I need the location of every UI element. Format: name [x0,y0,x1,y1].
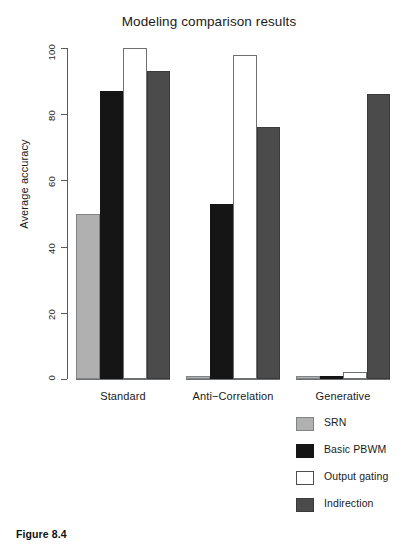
bar [123,48,147,379]
bar [147,71,171,379]
x-axis-label: Anti−Correlation [178,390,288,402]
x-axis-label: Generative [288,390,398,402]
bars-layer [68,48,398,379]
legend-item: SRN [296,414,418,441]
group-baseline [186,379,280,380]
legend-label: SRN [324,416,346,428]
y-tick-label: 20 [46,309,57,365]
figure-caption: Figure 8.4 [16,528,67,540]
y-tick-mark [61,313,67,314]
figure-panel: Modeling comparison results 020406080100… [0,0,418,550]
bar [76,214,100,380]
legend-swatch-icon [296,471,314,485]
bar [210,204,234,379]
legend-item: Basic PBWM [296,441,418,468]
y-tick-label: 100 [46,44,57,100]
legend-label: Output gating [324,470,388,482]
bar [233,55,257,379]
bar [320,376,344,379]
legend-swatch-icon [296,498,314,512]
bar [257,127,281,379]
bar [186,376,210,379]
x-axis-label: Standard [68,390,178,402]
legend-swatch-icon [296,444,314,458]
legend: SRNBasic PBWMOutput gatingIndirection [296,414,418,522]
bar [296,376,320,379]
legend-item: Indirection [296,495,418,522]
y-tick-label: 40 [46,243,57,299]
y-tick-mark [61,379,67,380]
y-tick-label: 80 [46,110,57,166]
y-tick-mark [61,114,67,115]
legend-label: Indirection [324,497,374,509]
legend-swatch-icon [296,417,314,431]
group-baseline [76,379,170,380]
y-tick-label: 60 [46,176,57,232]
y-tick-mark [61,180,67,181]
y-tick-label: 0 [46,375,57,431]
group-baseline [296,379,390,380]
chart-title: Modeling comparison results [0,14,418,29]
legend-item: Output gating [296,468,418,495]
y-tick-mark [61,48,67,49]
y-tick-mark [61,247,67,248]
bar [343,372,367,379]
y-axis-title: Average accuracy [18,84,30,284]
legend-label: Basic PBWM [324,443,386,455]
bar [100,91,124,379]
bar [367,94,391,379]
